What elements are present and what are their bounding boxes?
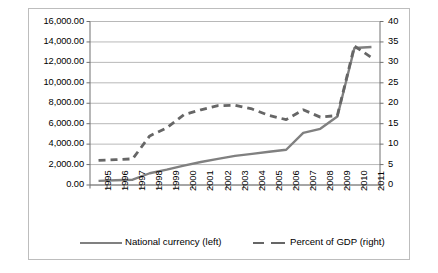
- y-axis-right-tick-label: 10: [388, 138, 398, 148]
- x-axis-tick-label: 1997: [137, 170, 147, 191]
- data-series: [99, 46, 372, 181]
- x-axis-tick-label: 2006: [291, 170, 301, 191]
- y-axis-right-tick-label: 40: [388, 16, 398, 26]
- x-axis-tick-label: 2010: [359, 170, 369, 191]
- x-axis-tick-label: 2001: [205, 170, 215, 191]
- x-axis-tick-label: 2004: [257, 170, 267, 191]
- x-axis-tick-label: 2003: [240, 170, 250, 191]
- x-axis-tick-label: 2007: [308, 170, 318, 191]
- y-axis-left-tick-label: 4,000.00: [10, 138, 84, 148]
- y-axis-right-tick-label: 20: [388, 97, 398, 107]
- legend-label-national-currency: National currency (left): [125, 236, 222, 247]
- y-axis-right-tick-label: 0: [388, 179, 393, 189]
- y-axis-left-tick-label: 14,000.00: [10, 36, 84, 46]
- y-axis-left-tick-label: 2,000.00: [10, 159, 84, 169]
- legend-swatch-national-currency: [80, 242, 122, 244]
- x-axis-tick-label: 2009: [342, 170, 352, 191]
- y-axis-left-tick-label: 8,000.00: [10, 97, 84, 107]
- x-axis-tick-label: 2002: [223, 170, 233, 191]
- y-axis-right-tick-label: 30: [388, 56, 398, 66]
- x-axis-tick-label: 2011: [376, 171, 386, 191]
- chart-legend: National currency (left) Percent of GDP …: [28, 232, 410, 252]
- legend-swatch-percent-of-gdp-a: [253, 242, 264, 244]
- x-axis-tick-label: 1998: [154, 170, 164, 191]
- x-axis-tick-label: 1995: [103, 170, 113, 191]
- x-axis-tick-label: 1996: [120, 170, 130, 191]
- y-axis-right-tick-label: 15: [388, 118, 398, 128]
- x-axis-tick-label: 1999: [171, 170, 181, 191]
- series-line-national-currency-left: [99, 47, 372, 181]
- axis-ticks: [87, 22, 384, 189]
- y-axis-left-tick-label: 16,000.00: [10, 16, 84, 26]
- y-axis-right-tick-label: 35: [388, 36, 398, 46]
- legend-swatch-percent-of-gdp-b: [271, 242, 285, 244]
- legend-label-percent-of-gdp: Percent of GDP (right): [290, 236, 385, 247]
- x-axis-tick-label: 2008: [325, 170, 335, 191]
- y-axis-left-tick-label: 6,000.00: [10, 118, 84, 128]
- y-axis-left-tick-label: 0.00: [10, 179, 84, 189]
- y-axis-left-tick-label: 10,000.00: [10, 77, 84, 87]
- y-axis-left-tick-label: 12,000.00: [10, 56, 84, 66]
- x-axis-tick-label: 2000: [188, 170, 198, 191]
- y-axis-right-tick-label: 5: [388, 159, 393, 169]
- y-axis-right-tick-label: 25: [388, 77, 398, 87]
- gridlines: [90, 22, 380, 186]
- x-axis-tick-label: 2005: [274, 170, 284, 191]
